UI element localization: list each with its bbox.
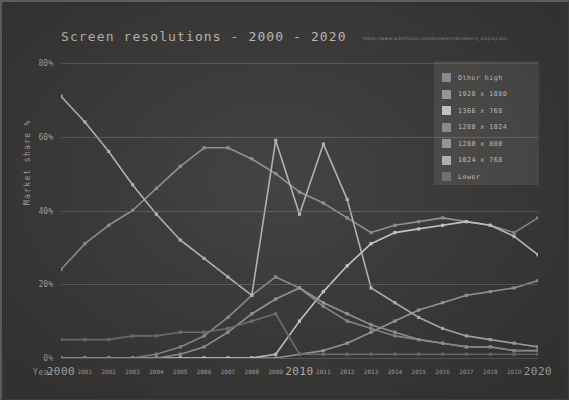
series-marker [441, 224, 444, 227]
legend-swatch-icon [442, 139, 451, 148]
x-axis-title: Year [33, 368, 55, 377]
series-marker [179, 238, 182, 241]
chart-title: Screen resolutions - 2000 - 2020 [61, 29, 347, 44]
legend-item[interactable]: 1366 x 768 [442, 103, 503, 118]
series-marker [441, 301, 444, 304]
series-marker [298, 191, 301, 194]
series-marker [61, 95, 63, 98]
series-marker [226, 316, 229, 319]
legend-item[interactable]: 1920 x 1080 [442, 87, 507, 102]
series-marker [346, 312, 349, 315]
y-axis-tick-label: 20% [39, 280, 53, 289]
x-axis-tick-label: 2001 [78, 368, 92, 375]
series-marker [322, 301, 325, 304]
series-marker [274, 312, 277, 315]
series-marker [107, 338, 110, 341]
series-marker [61, 338, 63, 341]
legend-item-label: 1280 x 800 [458, 140, 503, 148]
series-marker [179, 353, 182, 356]
series-marker [393, 224, 396, 227]
series-marker [536, 353, 538, 356]
y-axis-tick-label: 0% [43, 354, 53, 363]
series-marker [369, 323, 372, 326]
series-marker [274, 275, 277, 278]
series-marker [155, 334, 158, 337]
x-axis-tick-label: 2008 [245, 368, 259, 375]
series-marker [274, 139, 277, 142]
series-marker [536, 216, 538, 219]
series-marker [203, 146, 206, 149]
series-marker [83, 338, 86, 341]
series-marker [489, 338, 492, 341]
legend-swatch-icon [442, 73, 451, 82]
x-axis-tick-label: 2003 [125, 368, 139, 375]
x-axis-tick-label: 2009 [268, 368, 282, 375]
series-marker [441, 327, 444, 330]
source-url-label: https://www.w3schools.com/browsers/brows… [363, 36, 507, 41]
series-marker [298, 286, 301, 289]
series-marker [489, 290, 492, 293]
x-axis-tick-label: 2017 [459, 368, 473, 375]
legend-swatch-icon [442, 156, 451, 165]
series-marker [107, 224, 110, 227]
series-marker [513, 342, 516, 345]
legend-item-label: Lower [458, 173, 480, 181]
series-marker [226, 146, 229, 149]
series-marker [322, 143, 325, 146]
x-axis-tick-label: 2020 [524, 365, 553, 378]
legend-item[interactable]: 1280 x 1024 [442, 120, 507, 135]
legend-item-label: Other high [458, 74, 503, 82]
series-marker [107, 150, 110, 153]
series-marker [417, 220, 420, 223]
x-axis-tick-label: 2016 [435, 368, 449, 375]
series-marker [536, 349, 538, 352]
series-marker [513, 231, 516, 234]
series-marker [393, 353, 396, 356]
gridline [61, 358, 538, 359]
series-marker [417, 338, 420, 341]
series-marker [393, 301, 396, 304]
y-axis-tick-label: 40% [39, 206, 53, 215]
x-axis-tick-label: 2012 [340, 368, 354, 375]
series-marker [322, 353, 325, 356]
legend-swatch-icon [442, 106, 451, 115]
series-marker [393, 331, 396, 334]
legend-item[interactable]: 1024 x 768 [442, 153, 503, 168]
legend-item[interactable]: Other high [442, 70, 503, 85]
x-axis-tick-label: 2010 [285, 365, 314, 378]
series-marker [465, 294, 468, 297]
series-marker [393, 334, 396, 337]
x-axis-tick-label: 2004 [149, 368, 163, 375]
series-marker [513, 286, 516, 289]
legend-item[interactable]: Lower [442, 169, 480, 184]
series-marker [393, 231, 396, 234]
series-marker [489, 224, 492, 227]
series-marker [250, 157, 253, 160]
series-marker [417, 316, 420, 319]
series-marker [179, 345, 182, 348]
series-marker [465, 334, 468, 337]
series-marker [155, 213, 158, 216]
legend-item-label: 1024 x 768 [458, 156, 503, 164]
series-marker [489, 353, 492, 356]
series-marker [274, 353, 277, 356]
series-marker [513, 235, 516, 238]
x-axis-tick-label: 2007 [221, 368, 235, 375]
series-marker [322, 349, 325, 352]
series-marker [536, 345, 538, 348]
series-marker [489, 345, 492, 348]
series-marker [393, 320, 396, 323]
gridline [61, 211, 538, 212]
series-marker [417, 309, 420, 312]
series-marker [226, 275, 229, 278]
series-marker [441, 216, 444, 219]
series-marker [417, 227, 420, 230]
legend-item[interactable]: 1280 x 800 [442, 136, 503, 151]
series-marker [322, 290, 325, 293]
series-marker [274, 297, 277, 300]
series-marker [513, 353, 516, 356]
series-marker [250, 294, 253, 297]
gridline [61, 284, 538, 285]
x-axis-tick-label: 2005 [173, 368, 187, 375]
series-marker [369, 231, 372, 234]
